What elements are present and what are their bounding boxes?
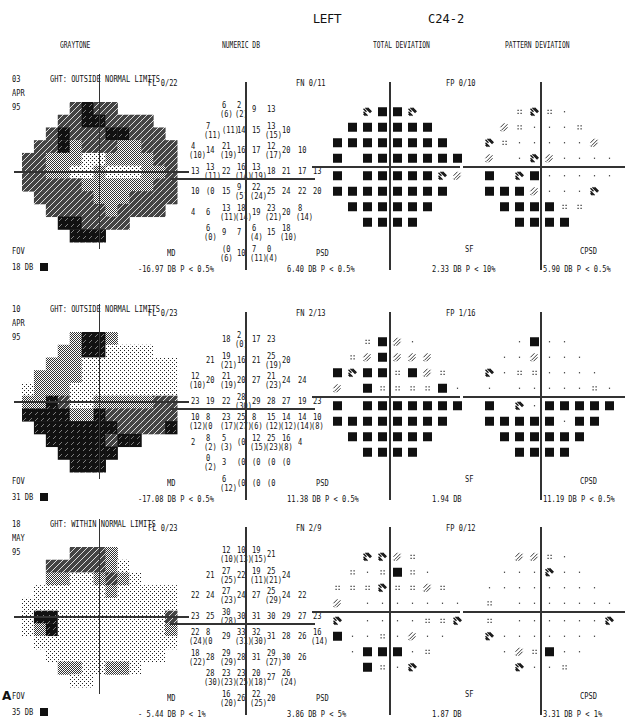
numeric-db-value: 20 (282, 355, 290, 365)
numeric-db-value: 9 (252, 104, 256, 114)
deviation-symbol (381, 665, 385, 669)
numeric-db-value: 10 (298, 145, 306, 155)
exam-date-month: APR (12, 88, 25, 98)
numeric-horizontal-axis (170, 408, 315, 410)
graytone-cell (105, 204, 117, 217)
column-header-total-deviation: TOTAL DEVIATION (373, 40, 430, 50)
numeric-db-value: 24 (282, 375, 290, 385)
deviation-symbol (485, 187, 494, 196)
numeric-db-threshold: (22) (189, 657, 206, 667)
deviation-symbol (579, 651, 580, 652)
graytone-cell (82, 623, 94, 636)
graytone-cell (153, 383, 165, 396)
graytone-cell (141, 598, 153, 611)
graytone-cell (70, 102, 82, 115)
deviation-symbol (519, 341, 520, 342)
graytone-cell (153, 153, 165, 166)
graytone-cell (165, 623, 177, 636)
deviation-symbol (397, 603, 398, 604)
numeric-db-value: 30 (237, 611, 245, 621)
graytone-cell (34, 140, 46, 153)
deviation-symbol (578, 125, 582, 129)
graytone-cell (141, 191, 153, 204)
deviation-symbol (560, 401, 569, 410)
numeric-db-threshold: (12) (220, 483, 237, 493)
numeric-db-value: 21 (282, 166, 290, 176)
graytone-cell (105, 662, 117, 675)
sf-label: SF (465, 474, 473, 484)
deviation-symbol (594, 158, 595, 159)
fovea-label: FOV (12, 691, 25, 701)
deviation-symbol (486, 139, 494, 147)
numeric-db-value: 24 (206, 590, 214, 600)
deviation-symbol (485, 417, 494, 426)
deviation-symbol (564, 651, 565, 652)
deviation-symbol (382, 603, 383, 604)
graytone-cell (58, 217, 70, 230)
deviation-symbol (564, 357, 565, 358)
deviation-symbol (378, 647, 387, 656)
deviation-symbol (378, 202, 387, 211)
deviation-symbol (549, 372, 550, 373)
deviation-symbol (333, 368, 342, 377)
graytone-cell (165, 140, 177, 153)
md-label: MD (167, 248, 175, 258)
pattern-deviation-vertical-axis (540, 527, 542, 715)
graytone-cell (153, 649, 165, 662)
graytone-cell (129, 598, 141, 611)
deviation-symbol (364, 108, 372, 116)
deviation-symbol (579, 388, 580, 389)
deviation-symbol (593, 386, 597, 390)
deviation-symbol (564, 191, 565, 192)
graytone-cell (141, 370, 153, 383)
deviation-symbol (378, 432, 387, 441)
graytone-cell (117, 649, 129, 662)
deviation-symbol (393, 401, 402, 410)
graytone-cell (58, 421, 70, 434)
numeric-db-threshold: (11) (220, 212, 237, 222)
psd-label: PSD (316, 248, 329, 258)
graytone-cell (153, 623, 165, 636)
graytone-cell (46, 421, 58, 434)
deviation-symbol (564, 175, 565, 176)
ght-result: GHT: OUTSIDE NORMAL LIMITS (50, 74, 160, 84)
graytone-cell (58, 408, 70, 421)
graytone-cell (82, 598, 94, 611)
deviation-symbol (579, 191, 580, 192)
graytone-cell (141, 649, 153, 662)
cpsd-label: CPSD (580, 246, 597, 256)
deviation-symbol (519, 142, 520, 143)
deviation-symbol (519, 603, 520, 604)
graytone-horizontal-axis (14, 616, 189, 618)
graytone-cell (105, 153, 117, 166)
graytone-cell (105, 421, 117, 434)
deviation-symbol (426, 650, 430, 654)
deviation-symbol (609, 175, 610, 176)
pattern-deviation-horizontal-axis (463, 396, 625, 398)
graytone-cell (105, 178, 117, 191)
graytone-cell (82, 332, 94, 345)
graytone-cell (141, 345, 153, 358)
numeric-db-value: 24 (298, 375, 306, 385)
deviation-symbol (393, 202, 402, 211)
graytone-cell (70, 383, 82, 396)
cpsd-label: CPSD (580, 691, 597, 701)
deviation-symbol (579, 357, 580, 358)
numeric-db-value: 7 (237, 227, 241, 237)
deviation-symbol (549, 191, 550, 192)
deviation-symbol (488, 619, 492, 623)
deviation-symbol (516, 172, 524, 180)
graytone-cell (165, 421, 177, 434)
graytone-cell (82, 585, 94, 598)
deviation-symbol (378, 337, 387, 346)
deviation-symbol (515, 202, 524, 211)
graytone-horizontal-axis (14, 171, 189, 173)
deviation-symbol (548, 110, 552, 114)
graytone-cell (117, 217, 129, 230)
graytone-cell (129, 115, 141, 128)
deviation-symbol (486, 632, 494, 640)
graytone-cell (153, 127, 165, 140)
graytone-cell (46, 153, 58, 166)
numeric-db-threshold: (10) (220, 554, 237, 564)
deviation-symbol (533, 371, 537, 375)
